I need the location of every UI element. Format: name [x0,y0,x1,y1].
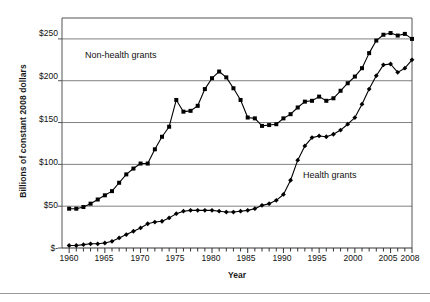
series-non-health-grants [67,31,414,211]
page-divider [0,293,430,294]
plot-area [0,0,430,302]
y-axis-ticks [58,39,62,248]
x-axis-ticks [69,248,412,253]
series-health-grants [67,57,415,247]
chart-figure: Billions of constant 2008 dollars Year $… [0,0,430,302]
grid-lines [62,39,412,206]
plot-frame [62,18,412,248]
